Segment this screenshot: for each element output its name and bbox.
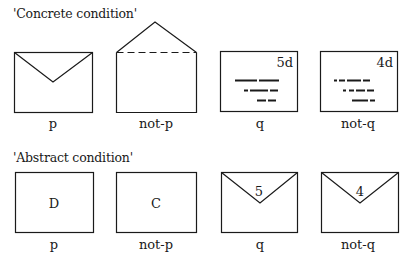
card-symbol-d: D xyxy=(49,196,59,211)
address-lines-icon xyxy=(334,80,375,102)
abstract-card-not-p: C xyxy=(117,173,197,233)
diagram-canvas: 5d 4d D xyxy=(0,0,413,265)
concrete-label-p: p xyxy=(13,116,93,131)
stamp-value-not-q: 4d xyxy=(376,55,393,70)
abstract-label-not-p: not-p xyxy=(116,237,196,252)
concrete-label-not-p: not-p xyxy=(116,116,196,131)
stamp-value-q: 5d xyxy=(276,55,293,70)
abstract-label-q: q xyxy=(220,237,300,252)
abstract-label-p: p xyxy=(14,237,94,252)
abstract-card-not-q-envelope-icon: 4 xyxy=(322,173,399,233)
concrete-card-p-envelope-icon xyxy=(15,53,93,113)
card-number-5: 5 xyxy=(255,184,263,199)
card-number-4: 4 xyxy=(356,184,364,199)
abstract-card-p: D xyxy=(16,173,94,233)
abstract-card-q-envelope-icon: 5 xyxy=(222,173,298,233)
concrete-label-not-q: not-q xyxy=(318,116,398,131)
concrete-card-q-envelope-front-icon: 5d xyxy=(221,52,298,112)
card-symbol-c: C xyxy=(151,196,161,211)
address-lines-icon xyxy=(235,80,279,102)
concrete-card-not-p-open-envelope-icon xyxy=(117,22,197,113)
concrete-card-not-q-envelope-front-icon: 4d xyxy=(321,52,398,112)
concrete-label-q: q xyxy=(220,116,300,131)
abstract-label-not-q: not-q xyxy=(318,237,398,252)
abstract-condition-title: 'Abstract condition' xyxy=(13,150,133,165)
